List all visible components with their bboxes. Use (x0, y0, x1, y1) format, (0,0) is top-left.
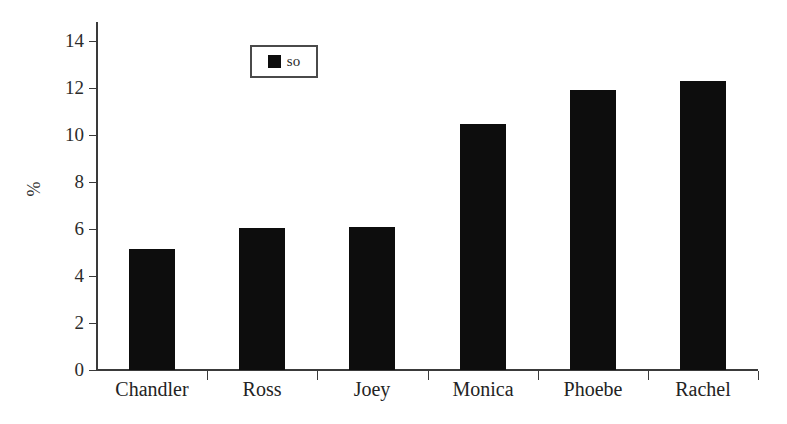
y-tick-label: 6 (52, 229, 84, 230)
legend: so (250, 45, 318, 78)
y-tick-mark (89, 323, 97, 324)
x-tick-mark (758, 371, 759, 380)
bar (349, 227, 395, 370)
legend-entry-label: so (287, 54, 300, 69)
y-tick-label: 2 (52, 323, 84, 324)
y-axis-line (96, 22, 98, 371)
y-tick-mark (89, 135, 97, 136)
y-tick-mark (89, 88, 97, 89)
legend-swatch-icon (268, 55, 281, 68)
bar (570, 90, 616, 370)
y-tick-mark (89, 229, 97, 230)
bar (239, 228, 285, 370)
y-axis-title: % (25, 169, 43, 209)
x-axis-label: Rachel (648, 378, 758, 400)
bar (129, 249, 175, 370)
y-tick-label: 12 (52, 88, 84, 89)
y-tick-mark (89, 41, 97, 42)
bar-chart: % 02468101214 ChandlerRossJoeyMonicaPhoe… (0, 0, 787, 424)
y-tick-label: 8 (52, 182, 84, 183)
y-tick-mark (89, 370, 97, 371)
bar (460, 124, 506, 370)
legend-entry: so (252, 47, 316, 76)
x-axis-label: Chandler (97, 378, 207, 400)
x-axis-label: Ross (207, 378, 317, 400)
y-tick-label: 4 (52, 276, 84, 277)
y-tick-mark (89, 182, 97, 183)
x-axis-label: Phoebe (538, 378, 648, 400)
bar (680, 81, 726, 370)
y-tick-label: 0 (52, 370, 84, 371)
y-tick-label: 10 (52, 135, 84, 136)
y-tick-mark (89, 276, 97, 277)
y-tick-label: 14 (52, 41, 84, 42)
x-axis-label: Joey (317, 378, 427, 400)
x-axis-label: Monica (428, 378, 538, 400)
